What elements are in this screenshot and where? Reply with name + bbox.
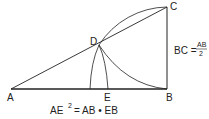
label-b: B [166,92,173,103]
formula-exponent: 2 [68,102,72,109]
arc-d-base [90,45,99,89]
label-d: D [90,36,97,47]
formula-rhs: = AB • EB [74,105,118,116]
label-e: E [104,92,111,103]
segment-ac [11,7,167,89]
label-c: C [170,1,177,12]
formula-lhs: AE [50,105,64,116]
bc-numerator: AB [197,41,207,48]
arc-d-b [99,45,167,89]
bc-denominator: 2 [199,50,203,57]
geometry-diagram: A B C D E BC = AB 2 AE 2 = AB • EB [0,0,209,119]
bc-lhs: BC = [174,45,197,56]
label-a: A [7,92,14,103]
